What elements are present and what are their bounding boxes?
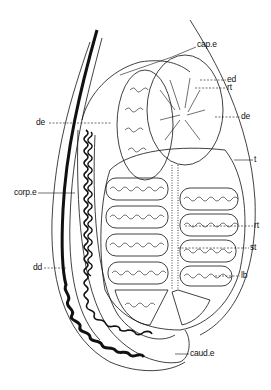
label-lb: lb xyxy=(241,271,247,280)
label-rt-mid: rt xyxy=(254,221,259,230)
label-t: t xyxy=(254,155,256,164)
label-dd: dd xyxy=(33,263,42,272)
label-st: st xyxy=(250,243,256,252)
label-rt-top: rt xyxy=(227,83,232,92)
label-de-right: de xyxy=(241,112,250,121)
label-cap-e: cap.e xyxy=(197,40,217,49)
testis-epididymis-diagram xyxy=(0,0,271,390)
label-corp-e: corp.e xyxy=(14,188,36,197)
mediastinum xyxy=(172,165,178,290)
tunica xyxy=(190,20,255,335)
label-de-left: de xyxy=(36,118,45,127)
ductus-deferens xyxy=(62,30,144,357)
label-caud-e: caud.e xyxy=(190,349,214,358)
